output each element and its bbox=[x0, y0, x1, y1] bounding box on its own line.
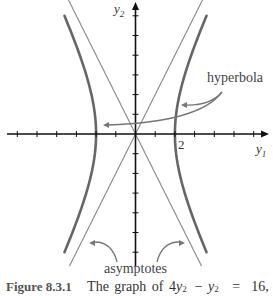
asymptote-arrow-right bbox=[157, 242, 179, 262]
asymptotes-annotation: asymptotes bbox=[104, 261, 167, 277]
y1-axis-arrow-icon bbox=[261, 131, 269, 138]
y2-axis-arrow-icon bbox=[132, 2, 139, 10]
arrowhead-icon bbox=[103, 122, 109, 128]
coordinate-axes bbox=[7, 2, 269, 266]
asymptote-arrow-left bbox=[95, 242, 117, 262]
arrowhead-icon bbox=[179, 240, 185, 246]
arrowhead-icon bbox=[89, 240, 95, 246]
figure-number: Figure 8.3.1 bbox=[6, 279, 72, 294]
tick-label-2: 2 bbox=[178, 137, 185, 153]
y1-axis-label: y1 bbox=[256, 141, 266, 159]
figure-caption: Figure 8.3.1 The graph of 4y21 − y22 = 1… bbox=[6, 279, 269, 295]
y2-axis-label: y2 bbox=[114, 1, 124, 19]
arrowhead-icon bbox=[181, 102, 187, 108]
annotation-arrows bbox=[89, 92, 222, 262]
hyperbola-annotation: hyperbola bbox=[207, 70, 263, 86]
hyperbola-arrow-left bbox=[108, 92, 222, 125]
caption-text: The graph of 4y21 − y22 = 16, bbox=[87, 279, 269, 294]
figure-8-3-1: y2 y1 2 hyperbola asymptotes Figure 8.3.… bbox=[0, 0, 273, 296]
hyperbola-plot bbox=[0, 0, 273, 296]
